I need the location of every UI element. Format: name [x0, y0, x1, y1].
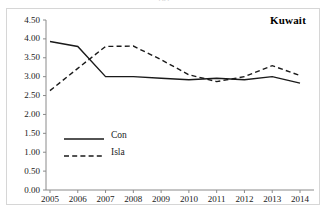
line-chart-plot: [0, 0, 328, 216]
x-axis-tick-labels: 2005200620072008200920102011201220132014: [0, 190, 328, 206]
chart-legend: ConIsla: [64, 126, 127, 160]
legend-item: Con: [64, 126, 127, 143]
legend-item-label: Isla: [111, 147, 125, 157]
y-axis-tick-label: 3.50: [10, 53, 40, 62]
y-axis-tick-label: 4.50: [10, 16, 40, 25]
series-line-con: [50, 42, 300, 84]
chart-axes: [43, 20, 314, 193]
y-axis-tick-label: 2.50: [10, 91, 40, 100]
legend-item: Isla: [64, 143, 127, 160]
series-title: Kuwait: [270, 14, 306, 26]
y-axis-tick-label: 3.00: [10, 72, 40, 81]
legend-swatch-dashed: [64, 147, 104, 157]
y-axis-tick-label: 0.50: [10, 167, 40, 176]
y-axis-tick-labels: 4.504.003.503.002.502.001.501.000.500.00: [8, 8, 40, 205]
y-axis-tick-label: 2.00: [10, 110, 40, 119]
legend-item-label: Con: [111, 130, 127, 140]
legend-swatch-solid: [64, 130, 104, 140]
x-axis-tick-label: 2014: [283, 194, 317, 204]
y-axis-tick-label: 1.00: [10, 148, 40, 157]
y-axis-tick-label: 1.50: [10, 129, 40, 138]
series-line-isla: [50, 46, 300, 91]
y-axis-tick-label: 4.00: [10, 34, 40, 43]
figure-root: (a) 4.504.003.503.002.502.001.501.000.50…: [0, 0, 328, 216]
